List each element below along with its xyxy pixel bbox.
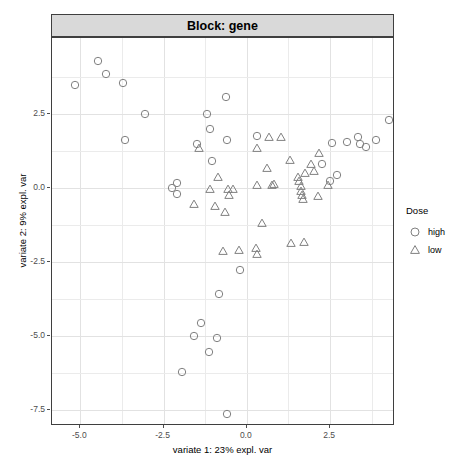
legend-label-low: low: [428, 245, 442, 255]
x-tick-mark: [246, 425, 247, 428]
legend: Dose high low: [406, 205, 466, 259]
grid-line: [52, 225, 393, 226]
y-tick-mark: [47, 335, 50, 336]
y-axis-title: variate 2: 9% expl. var: [17, 121, 28, 321]
data-point-low[interactable]: [284, 154, 296, 166]
data-point-low[interactable]: [322, 179, 334, 191]
data-point-high[interactable]: [195, 317, 207, 329]
data-point-high[interactable]: [234, 264, 246, 276]
triangle-open-icon: [406, 241, 424, 259]
data-point-high[interactable]: [370, 134, 382, 146]
x-axis-title: variate 1: 23% expl. var: [51, 444, 394, 455]
grid-line: [80, 38, 81, 424]
facet-strip: Block: gene: [51, 14, 394, 37]
grid-line: [372, 38, 373, 424]
grid-line: [164, 38, 165, 424]
x-tick-label: -5.0: [72, 430, 87, 440]
data-point-high[interactable]: [221, 134, 233, 146]
grid-line: [247, 38, 248, 424]
x-tick-label: -2.5: [155, 430, 170, 440]
x-tick-mark: [163, 425, 164, 428]
data-point-low[interactable]: [212, 171, 224, 183]
data-point-low[interactable]: [251, 142, 263, 154]
data-point-low[interactable]: [263, 131, 275, 143]
y-tick-mark: [47, 113, 50, 114]
data-point-high[interactable]: [221, 408, 233, 420]
data-point-high[interactable]: [220, 91, 232, 103]
data-point-high[interactable]: [171, 188, 183, 200]
data-point-high[interactable]: [206, 155, 218, 167]
data-point-high[interactable]: [139, 108, 151, 120]
legend-item-low[interactable]: low: [406, 241, 466, 259]
data-point-low[interactable]: [251, 179, 263, 191]
facet-strip-label: Block: gene: [187, 19, 258, 33]
data-point-high[interactable]: [211, 332, 223, 344]
grid-line: [52, 114, 393, 115]
data-point-high[interactable]: [213, 288, 225, 300]
y-tick-mark: [47, 409, 50, 410]
data-point-high[interactable]: [117, 77, 129, 89]
y-tick-mark: [47, 261, 50, 262]
grid-line: [122, 38, 123, 424]
data-point-low[interactable]: [308, 165, 320, 177]
data-point-high[interactable]: [201, 108, 213, 120]
scatter-plot-figure: Block: gene 2.50.0-2.5-5.0-7.5 -5.0-2.50…: [0, 0, 466, 470]
data-point-low[interactable]: [297, 193, 309, 205]
x-tick-label: 2.5: [323, 430, 335, 440]
data-point-low[interactable]: [285, 237, 297, 249]
legend-title: Dose: [406, 205, 466, 216]
grid-line: [52, 151, 393, 152]
legend-label-high: high: [428, 227, 445, 237]
data-point-high[interactable]: [203, 346, 215, 358]
grid-line: [330, 38, 331, 424]
grid-line: [52, 262, 393, 263]
data-point-high[interactable]: [92, 55, 104, 67]
data-point-high[interactable]: [69, 79, 81, 91]
data-point-high[interactable]: [100, 68, 112, 80]
data-point-low[interactable]: [298, 236, 310, 248]
grid-line: [52, 373, 393, 374]
x-tick-mark: [79, 425, 80, 428]
grid-line: [205, 38, 206, 424]
data-point-high[interactable]: [188, 330, 200, 342]
data-point-low[interactable]: [261, 162, 273, 174]
y-tick-mark: [47, 187, 50, 188]
plot-panel: [51, 37, 394, 425]
data-point-low[interactable]: [193, 142, 205, 154]
data-point-high[interactable]: [176, 366, 188, 378]
data-point-low[interactable]: [217, 245, 229, 257]
x-tick-label: 0.0: [240, 430, 252, 440]
data-point-low[interactable]: [268, 178, 280, 190]
data-point-low[interactable]: [256, 217, 268, 229]
circle-open-icon: [406, 223, 424, 241]
data-point-high[interactable]: [383, 114, 394, 126]
data-point-high[interactable]: [204, 123, 216, 135]
x-tick-mark: [329, 425, 330, 428]
data-point-high[interactable]: [341, 136, 353, 148]
grid-line: [288, 38, 289, 424]
data-point-low[interactable]: [251, 248, 263, 260]
data-point-high[interactable]: [119, 134, 131, 146]
y-axis-title-wrap: variate 2: 9% expl. var: [0, 0, 30, 470]
grid-line: [52, 336, 393, 337]
data-point-low[interactable]: [233, 244, 245, 256]
data-point-low[interactable]: [188, 198, 200, 210]
data-point-low[interactable]: [312, 190, 324, 202]
data-point-low[interactable]: [275, 131, 287, 143]
data-point-high[interactable]: [251, 130, 263, 142]
data-point-low[interactable]: [219, 206, 231, 218]
data-point-low[interactable]: [204, 183, 216, 195]
data-point-low[interactable]: [227, 183, 239, 195]
data-point-low[interactable]: [313, 147, 325, 159]
legend-item-high[interactable]: high: [406, 223, 466, 241]
data-point-high[interactable]: [326, 137, 338, 149]
